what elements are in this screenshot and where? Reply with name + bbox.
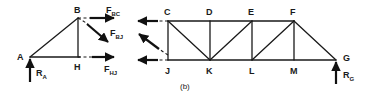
right-free-body: C D E F J K L M G RG (138, 7, 355, 84)
joint-label-M: M (290, 66, 298, 76)
joint-label-L: L (249, 66, 255, 76)
truss-free-body-diagram-figure: A B H FBC FBJ FHJ RA (0, 0, 374, 93)
right-cut-force-arrows (138, 21, 168, 60)
left-joint-labels: A B H (17, 5, 81, 72)
left-free-body: A B H FBC FBJ FHJ RA (17, 5, 123, 82)
reaction-label-rg-sub: G (350, 76, 355, 82)
joint-label-K: K (206, 66, 213, 76)
joint-label-C: C (164, 7, 171, 17)
cut-dash-right-diag (159, 49, 168, 55)
joint-label-B: B (74, 5, 81, 15)
joint-label-F: F (290, 7, 296, 17)
force-arrow-fbj (87, 24, 108, 42)
diagram-canvas: A B H FBC FBJ FHJ RA (0, 0, 374, 93)
left-cut-dashed-lines (78, 18, 92, 57)
reaction-label-ra-sub: A (43, 74, 48, 80)
force-label-fbc-sub: BC (112, 11, 121, 17)
force-arrow-fbj-reaction (139, 34, 159, 49)
joint-label-E: E (248, 7, 254, 17)
force-label-fhj: FHJ (104, 64, 117, 76)
reaction-label-rg: RG (343, 70, 355, 82)
figure-caption: (b) (180, 82, 190, 91)
joint-label-G: G (343, 53, 350, 63)
joint-label-J: J (165, 66, 170, 76)
joint-label-A: A (17, 52, 24, 62)
right-top-joint-labels: C D E F (164, 7, 296, 17)
member-L-F (252, 21, 294, 60)
force-label-fhj-sub: HJ (110, 70, 118, 76)
joint-label-H: H (74, 62, 81, 72)
joint-label-D: D (206, 7, 213, 17)
force-label-fbc: FBC (106, 5, 121, 17)
member-F-G (294, 21, 336, 60)
force-label-fbj-sub: BJ (116, 34, 124, 40)
left-truss-members (30, 18, 80, 57)
member-K-E (210, 21, 252, 60)
right-bottom-joint-labels: J K L M G (165, 53, 350, 76)
cut-dash-bj (78, 18, 88, 24)
member-A-B (30, 18, 78, 57)
member-C-K (168, 21, 210, 60)
force-label-fbj: FBJ (110, 28, 123, 40)
reaction-label-ra: RA (36, 68, 48, 80)
